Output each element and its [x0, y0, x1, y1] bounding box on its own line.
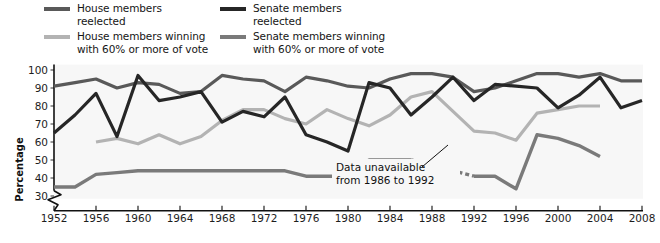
- y-tick-label: 40: [35, 172, 48, 184]
- x-tick-label: 1988: [419, 212, 446, 224]
- x-tick-label: 1960: [125, 212, 152, 224]
- x-tick-label: 1972: [251, 212, 278, 224]
- legend-column-house: House members reelected House members wi…: [44, 2, 212, 58]
- legend-swatch-icon: [220, 35, 246, 39]
- y-axis-label: Percentage: [14, 125, 25, 215]
- plot-area: Percentage 30405060708090100 19521956196…: [0, 56, 660, 243]
- y-tick-label: 90: [35, 82, 48, 94]
- x-tick-label: 1984: [377, 212, 404, 224]
- legend-senate-reelected: Senate members reelected: [220, 2, 388, 27]
- legend-column-senate: Senate members reelected Senate members …: [220, 2, 388, 58]
- legend-label: Senate members winning with 60% or more …: [253, 30, 385, 55]
- legend-senate-60: Senate members winning with 60% or more …: [220, 30, 388, 55]
- x-tick-label: 2004: [587, 212, 614, 224]
- x-axis-ticks: 1952195619601964196819721976198019841988…: [41, 206, 656, 225]
- legend-swatch-icon: [44, 7, 70, 11]
- legend-house-60: House members winning with 60% or more o…: [44, 30, 212, 55]
- y-tick-label: 100: [28, 64, 48, 76]
- legend-house-reelected: House members reelected: [44, 2, 212, 27]
- x-tick-label: 2008: [629, 212, 656, 224]
- x-tick-label: 2000: [545, 212, 572, 224]
- annotation-line-2: from 1986 to 1992: [336, 174, 434, 186]
- y-tick-label: 30: [35, 190, 48, 202]
- chart-svg: 30405060708090100 1952195619601964196819…: [0, 56, 660, 243]
- y-tick-label: 50: [35, 154, 48, 166]
- legend-label: House members winning with 60% or more o…: [77, 30, 208, 55]
- legend-swatch-icon: [44, 35, 70, 39]
- annotation-line-1: Data unavailable: [336, 161, 425, 173]
- x-tick-label: 1952: [41, 212, 68, 224]
- y-tick-label: 60: [35, 136, 48, 148]
- x-tick-label: 1980: [335, 212, 362, 224]
- chart-figure: House members reelected House members wi…: [0, 0, 660, 243]
- x-tick-label: 1996: [503, 212, 530, 224]
- x-tick-label: 1976: [293, 212, 320, 224]
- legend-label: Senate members reelected: [253, 2, 388, 27]
- y-tick-label: 70: [35, 118, 48, 130]
- chart-legend: House members reelected House members wi…: [44, 2, 644, 58]
- y-axis-ticks: 30405060708090100: [28, 64, 54, 202]
- x-tick-label: 1992: [461, 212, 488, 224]
- x-tick-label: 1968: [209, 212, 236, 224]
- y-tick-label: 80: [35, 100, 48, 112]
- x-tick-label: 1964: [167, 212, 194, 224]
- legend-label: House members reelected: [77, 2, 212, 27]
- x-tick-label: 1956: [83, 212, 110, 224]
- legend-swatch-icon: [220, 7, 246, 11]
